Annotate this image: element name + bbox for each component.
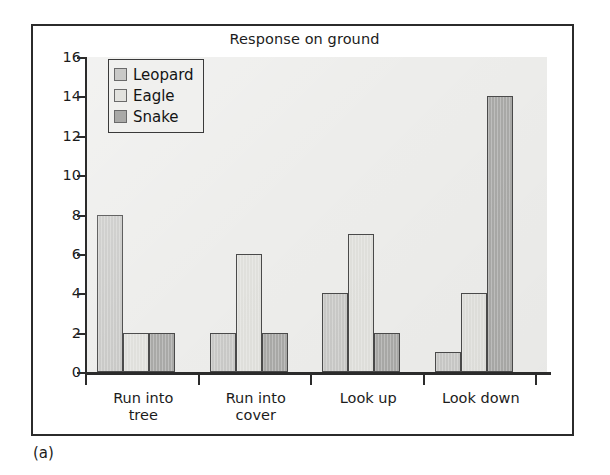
legend-item-leopard[interactable]: Leopard: [114, 64, 194, 85]
figure-frame: Response on ground 1614121086420 Run int…: [31, 24, 574, 436]
x-axis-tick-mark: [85, 372, 87, 385]
chart-legend: LeopardEagleSnake: [108, 59, 204, 133]
y-axis-tick-label: 4: [45, 285, 81, 301]
x-axis-category-label: Run intocover: [200, 390, 313, 424]
y-axis-tick-mark: [77, 254, 86, 256]
y-axis-tick-label: 0: [45, 364, 81, 380]
legend-item-snake[interactable]: Snake: [114, 106, 194, 127]
y-axis-tick-mark: [77, 96, 86, 98]
legend-swatch-icon: [114, 110, 127, 123]
y-axis-tick-label: 8: [45, 207, 81, 223]
bar-group: [200, 57, 313, 372]
x-axis-category-label: Run intotree: [87, 390, 200, 424]
bar-leopard-3[interactable]: [435, 352, 461, 372]
y-axis-tick-label: 6: [45, 246, 81, 262]
x-axis-tick-mark: [198, 372, 200, 385]
bar-snake-0[interactable]: [149, 333, 175, 372]
y-axis-tick-mark: [77, 293, 86, 295]
x-axis-category-label-line1: Run into: [113, 390, 173, 406]
x-axis-category-label-line1: Run into: [226, 390, 286, 406]
x-axis-category-label: Look up: [312, 390, 425, 407]
y-axis-tick-labels: 1614121086420: [45, 51, 81, 373]
y-axis-tick-label: 2: [45, 325, 81, 341]
bar-snake-2[interactable]: [374, 333, 400, 372]
legend-swatch-icon: [114, 89, 127, 102]
bar-eagle-3[interactable]: [461, 293, 487, 372]
y-axis-tick-label: 10: [45, 167, 81, 183]
bar-eagle-2[interactable]: [348, 234, 374, 372]
x-axis-category-label-line1: Look up: [340, 390, 397, 406]
x-axis-category-label-line1: Look down: [442, 390, 520, 406]
bar-leopard-0[interactable]: [97, 215, 123, 373]
x-axis-tick-mark: [423, 372, 425, 385]
legend-item-label: Snake: [133, 108, 179, 126]
figure-caption-label: (a): [33, 444, 54, 462]
y-axis-tick-label: 14: [45, 88, 81, 104]
bar-snake-3[interactable]: [487, 96, 513, 372]
y-axis-tick-mark: [77, 57, 86, 59]
x-axis-tick-mark: [310, 372, 312, 385]
bar-group: [312, 57, 425, 372]
bar-leopard-2[interactable]: [322, 293, 348, 372]
y-axis-tick-mark: [77, 333, 86, 335]
x-axis-category-label: Look down: [425, 390, 538, 407]
y-axis-tick-mark: [77, 136, 86, 138]
y-axis-tick-label: 16: [45, 49, 81, 65]
legend-item-label: Leopard: [133, 66, 194, 84]
y-axis-tick-mark: [77, 215, 86, 217]
bar-eagle-1[interactable]: [236, 254, 262, 372]
x-axis-tick-mark: [535, 372, 537, 385]
x-axis-category-label-line2: tree: [87, 407, 200, 424]
chart-title: Response on ground: [33, 31, 576, 47]
legend-item-label: Eagle: [133, 87, 175, 105]
x-axis-line: [85, 372, 551, 375]
y-axis-tick-label: 12: [45, 128, 81, 144]
bar-group: [425, 57, 538, 372]
x-axis-category-label-line2: cover: [200, 407, 313, 424]
y-axis-tick-mark: [77, 175, 86, 177]
legend-swatch-icon: [114, 68, 127, 81]
bar-eagle-0[interactable]: [123, 333, 149, 372]
legend-item-eagle[interactable]: Eagle: [114, 85, 194, 106]
bar-snake-1[interactable]: [262, 333, 288, 372]
bar-leopard-1[interactable]: [210, 333, 236, 372]
